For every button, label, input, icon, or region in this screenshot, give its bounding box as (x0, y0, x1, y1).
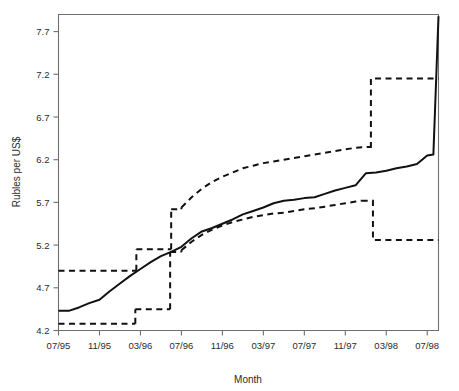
y-tick-label: 4.7 (36, 282, 49, 293)
y-tick-label: 5.7 (36, 197, 49, 208)
y-axis-title: Rubles per US$ (11, 136, 22, 207)
y-tick-label: 7.7 (36, 26, 49, 37)
x-tick-label: 07/95 (47, 340, 71, 351)
y-axis-ticks: 4.24.75.25.76.26.77.27.7 (36, 26, 58, 336)
x-axis-ticks: 07/9511/9503/9607/9611/9603/9707/9711/97… (47, 331, 440, 351)
series-lower-band (59, 201, 439, 324)
series-exchange-rate (59, 16, 439, 311)
chart-container: 4.24.75.25.76.26.77.27.7 07/9511/9503/96… (0, 0, 459, 391)
y-tick-label: 5.2 (36, 240, 49, 251)
x-tick-label: 03/96 (129, 340, 153, 351)
x-tick-label: 11/97 (334, 340, 357, 351)
y-tick-label: 4.2 (36, 325, 49, 336)
y-tick-label: 6.7 (36, 112, 49, 123)
x-tick-label: 11/96 (211, 340, 234, 351)
x-tick-label: 11/95 (88, 340, 111, 351)
x-axis-title: Month (234, 374, 262, 385)
data-series-group (59, 16, 439, 323)
exchange-rate-line-chart: 4.24.75.25.76.26.77.27.7 07/9511/9503/96… (0, 0, 459, 391)
x-tick-label: 03/97 (251, 340, 275, 351)
series-upper-band (59, 79, 439, 271)
y-tick-label: 7.2 (36, 69, 49, 80)
x-tick-label: 07/96 (170, 340, 194, 351)
x-tick-label: 07/97 (292, 340, 316, 351)
x-tick-label: 07/98 (415, 340, 439, 351)
x-tick-label: 03/98 (374, 340, 398, 351)
y-tick-label: 6.2 (36, 154, 49, 165)
